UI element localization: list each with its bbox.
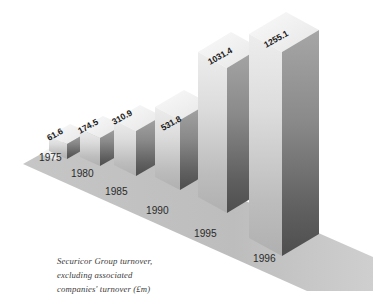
bar-front-1031 xyxy=(198,52,227,213)
bar-group-1255[interactable] xyxy=(249,12,319,256)
caption-line-1: Securicor Group turnover, xyxy=(57,256,152,266)
bar-front-1255 xyxy=(249,34,282,256)
caption-line-3: companies' turnover (£m) xyxy=(57,284,150,294)
year-label-1996: 1996 xyxy=(253,253,276,264)
caption-line-2: excluding associated xyxy=(57,270,133,280)
year-label-1980: 1980 xyxy=(71,168,94,179)
bar-chart-3d: 61.6 174.5 310.9 531.8 1031.4 1255.1 197… xyxy=(0,0,373,307)
chart-container: 61.6 174.5 310.9 531.8 1031.4 1255.1 197… xyxy=(0,0,373,307)
year-label-1995: 1995 xyxy=(194,228,217,239)
year-label-1985: 1985 xyxy=(105,186,128,197)
year-label-1990: 1990 xyxy=(146,205,169,216)
year-label-1975: 1975 xyxy=(39,152,62,163)
bar-side-1255 xyxy=(282,30,319,256)
